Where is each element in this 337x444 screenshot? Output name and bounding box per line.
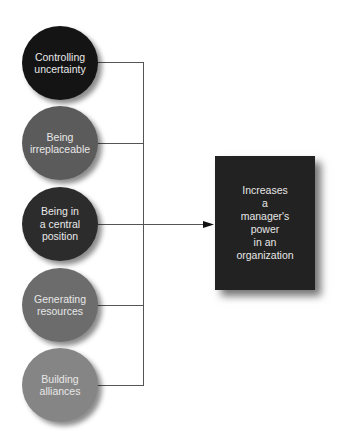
power-sources-diagram: Controlling uncertainty Being irreplacea… xyxy=(0,0,337,444)
target-label: Increases a manager's power in an organi… xyxy=(236,184,293,262)
node-being-irreplaceable: Being irreplaceable xyxy=(22,106,98,180)
node-building-alliances: Building alliances xyxy=(22,348,98,422)
node-label: Being irreplaceable xyxy=(30,131,90,156)
node-generating-resources: Generating resources xyxy=(22,268,98,342)
node-label: Generating resources xyxy=(34,293,86,318)
node-central-position: Being in a central position xyxy=(22,187,98,261)
node-label: Being in a central position xyxy=(40,205,80,243)
node-label: Controlling uncertainty xyxy=(34,51,85,76)
target-box-manager-power: Increases a manager's power in an organi… xyxy=(215,156,315,290)
node-controlling-uncertainty: Controlling uncertainty xyxy=(22,26,98,100)
node-label: Building alliances xyxy=(40,373,81,398)
arrowhead-icon xyxy=(203,221,214,228)
